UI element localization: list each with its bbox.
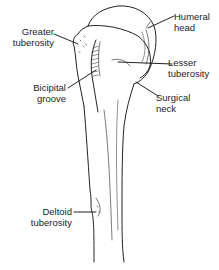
label-deltoid-tuberosity: Deltoid tuberosity [24,206,72,228]
label-greater-tuberosity: Greater tuberosity [6,26,54,48]
label-humeral-head: Humeral head [174,11,210,33]
shaft-medial-outline [122,84,134,262]
leader-greater-tuberosity [54,34,78,44]
label-lesser-tuberosity: Lesser tuberosity [168,57,209,79]
label-surgical-neck: Surgical neck [156,92,190,114]
articular-margin [88,25,151,78]
leader-bicipital-groove [68,70,96,88]
shaft-lateral-outline [84,106,94,262]
leader-surgical-neck [136,82,158,96]
label-bicipital-groove: Bicipital groove [22,82,66,104]
greater-tuberosity-outline [73,26,88,106]
leader-lesser-tuberosity [118,62,172,64]
